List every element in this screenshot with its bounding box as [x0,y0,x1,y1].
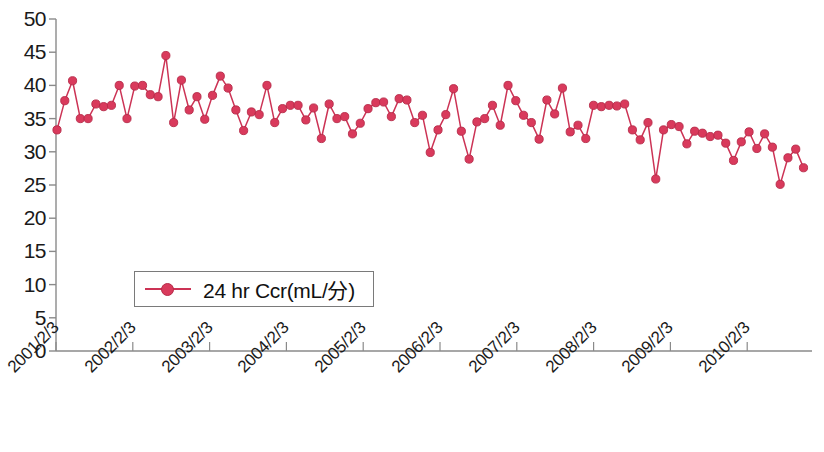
data-point [512,97,520,105]
plot-area [0,0,824,452]
data-point [792,145,800,153]
data-point [403,96,411,104]
series-24hr-ccr [53,51,808,188]
data-point [667,120,675,128]
data-point [691,127,699,135]
data-point [737,138,745,146]
legend: 24 hr Ccr(mL/分) [134,271,374,307]
data-point [784,154,792,162]
y-tick-label: 45 [2,41,46,62]
data-point [387,113,395,121]
legend-label: 24 hr Ccr(mL/分) [203,274,355,304]
data-point [605,101,613,109]
data-point [92,100,100,108]
data-point [698,129,706,137]
data-point [53,126,61,134]
data-point [310,104,318,112]
data-point [61,97,69,105]
data-point [177,76,185,84]
data-point [162,51,170,59]
data-point [68,77,76,85]
y-tick-label: 20 [2,207,46,228]
data-point [123,115,131,123]
data-point [675,122,683,130]
data-point [481,115,489,123]
data-point [395,95,403,103]
data-point [652,175,660,183]
data-point [138,81,146,89]
data-point [426,148,434,156]
data-point [325,100,333,108]
data-point [154,93,162,101]
data-point [582,134,590,142]
data-point [566,128,574,136]
data-point [224,84,232,92]
data-point [465,155,473,163]
data-point [551,110,559,118]
data-point [644,118,652,126]
data-point [115,81,123,89]
data-point [356,119,364,127]
data-point [100,103,108,111]
data-point [589,101,597,109]
data-point [729,156,737,164]
data-point [185,106,193,114]
data-point [208,91,216,99]
data-point [496,121,504,129]
data-point [473,118,481,126]
data-point [535,135,543,143]
data-point [255,111,263,119]
data-point [574,121,582,129]
data-point [84,115,92,123]
data-point [201,115,209,123]
data-point [341,113,349,121]
data-point [442,111,450,119]
data-point [636,136,644,144]
data-point [519,111,527,119]
data-point [457,127,465,135]
data-point [76,115,84,123]
y-tick-label: 15 [2,240,46,261]
data-point [706,132,714,140]
data-point [263,81,271,89]
data-point [597,103,605,111]
data-point [170,118,178,126]
y-tick-label: 25 [2,174,46,195]
data-point [714,131,722,139]
data-point [411,118,419,126]
y-tick-label: 40 [2,74,46,95]
data-point [418,111,426,119]
data-point [364,105,372,113]
data-point [799,164,807,172]
data-point [753,144,761,152]
data-point [379,98,387,106]
data-point [621,100,629,108]
data-point [613,102,621,110]
data-point [107,101,115,109]
data-point [146,91,154,99]
data-point [247,108,255,116]
data-point [294,101,302,109]
data-point [543,96,551,104]
data-point [348,130,356,138]
chart-container: 05101520253035404550 2001/2/32002/2/3200… [0,0,824,452]
data-point [768,143,776,151]
data-point [317,134,325,142]
data-point [302,116,310,124]
data-point [278,105,286,113]
data-point [131,82,139,90]
data-point [286,101,294,109]
y-tick-label: 30 [2,141,46,162]
y-tick-label: 10 [2,274,46,295]
data-point [745,128,753,136]
y-tick-label: 5 [2,307,46,328]
data-point [216,72,224,80]
data-point [722,139,730,147]
data-point [240,126,248,134]
legend-marker-icon [145,282,191,296]
y-tick-label: 50 [2,8,46,29]
data-point [271,118,279,126]
data-point [372,99,380,107]
data-point [488,101,496,109]
data-point [628,126,636,134]
